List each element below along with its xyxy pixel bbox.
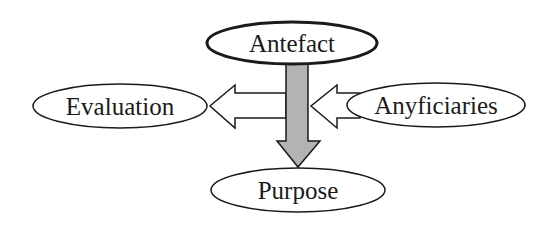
diagram-canvas: Antefact Evaluation Anyficiaries Purpose <box>0 0 547 228</box>
node-antefact: Antefact <box>207 22 377 64</box>
label-antefact: Antefact <box>249 30 335 57</box>
label-evaluation: Evaluation <box>66 93 175 120</box>
arrow-to-evaluation <box>210 85 286 128</box>
node-anyficiaries: Anyficiaries <box>347 83 525 127</box>
label-purpose: Purpose <box>258 177 339 204</box>
node-purpose: Purpose <box>211 168 385 212</box>
node-evaluation: Evaluation <box>33 84 207 128</box>
label-anyficiaries: Anyficiaries <box>374 92 498 119</box>
